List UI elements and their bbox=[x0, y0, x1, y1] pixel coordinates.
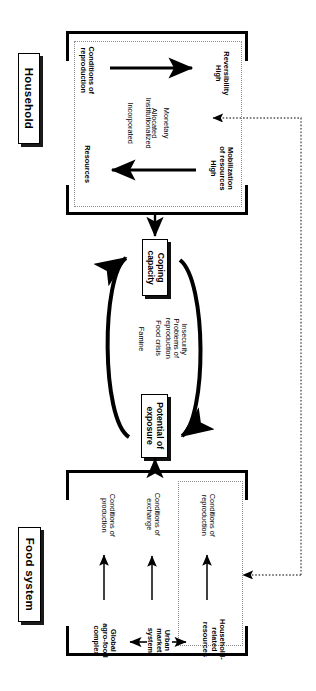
feedback-loop-dotted bbox=[213, 118, 301, 575]
cycle-arrow-coping-to-exposure bbox=[180, 260, 201, 436]
arrows-layer bbox=[0, 0, 316, 691]
cycle-arrow-exposure-to-coping bbox=[108, 258, 129, 437]
